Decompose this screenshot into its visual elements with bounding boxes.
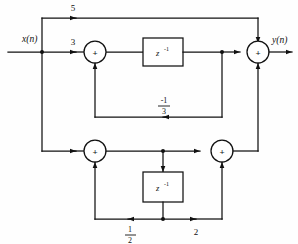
gain-label-one-half-numerator: 1 [128, 225, 132, 234]
gain-label-3: 3 [71, 37, 76, 47]
input-label: x(n) [21, 34, 37, 45]
output-label: y(n) [271, 35, 287, 46]
gain-label-one-half-denominator: 2 [128, 236, 132, 244]
delay-bottom-label: z [155, 183, 160, 193]
summer-bottom-left-sign: + [92, 147, 97, 157]
node-bottom-delay-tap [161, 217, 165, 221]
gain-label-neg-one-third-denominator: 3 [162, 107, 166, 116]
summer-bottom-right-sign: + [219, 147, 224, 157]
diagram-canvas: + + + + z -1 z -1 x(n) y(n) 5 3 -1 3 1 2… [0, 0, 298, 244]
signal-flow-diagram: + + + + z -1 z -1 x(n) y(n) 5 3 -1 3 1 2… [0, 0, 298, 244]
delay-bottom-exponent: -1 [164, 181, 169, 187]
summer-top-left-sign: + [92, 48, 97, 58]
gain-label-neg-one-third-numerator: -1 [161, 96, 168, 105]
gain-label-5: 5 [71, 3, 76, 13]
gain-label-2: 2 [194, 227, 199, 237]
delay-top-label: z [155, 48, 160, 58]
delay-block-bottom [143, 172, 183, 202]
summer-output-sign: + [255, 48, 260, 58]
delay-block-top [143, 38, 183, 66]
delay-top-exponent: -1 [164, 46, 169, 52]
